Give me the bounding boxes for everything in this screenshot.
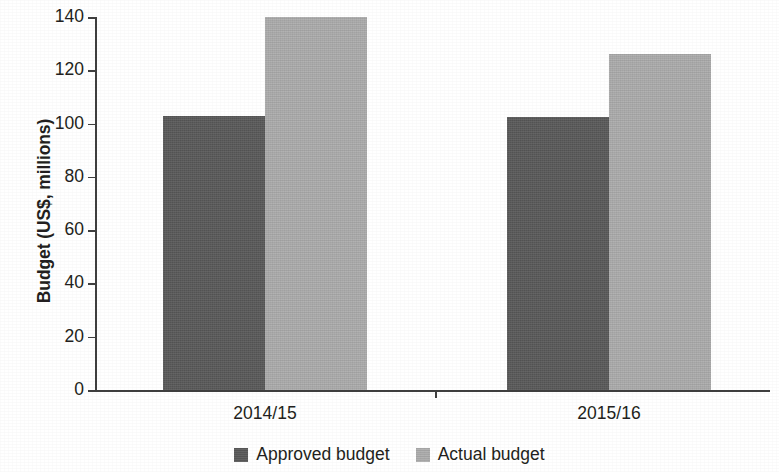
y-axis-tick-label: 60	[65, 221, 84, 239]
bar	[507, 117, 609, 390]
legend-label: Actual budget	[438, 446, 545, 464]
legend-entry: Actual budget	[416, 446, 545, 464]
y-axis-tick-mark	[88, 70, 95, 72]
y-axis-tick-label: 80	[65, 168, 84, 186]
bar	[609, 54, 711, 390]
chart-legend: Approved budgetActual budget	[0, 446, 779, 464]
bar	[163, 116, 265, 390]
x-axis-category-label: 2015/16	[577, 403, 640, 424]
y-axis-tick-mark	[88, 17, 95, 19]
y-axis-line	[95, 17, 97, 391]
y-axis-tick-label: 0	[74, 381, 84, 399]
y-axis-tick-mark	[88, 390, 95, 392]
y-axis-tick-mark	[88, 283, 95, 285]
y-axis-tick-mark	[88, 177, 95, 179]
plot-area: 020406080100120140 2014/152015/16	[95, 17, 770, 390]
bar-chart-figure: Budget (US$, millions) 02040608010012014…	[0, 0, 779, 472]
y-axis-tick-mark	[88, 337, 95, 339]
legend-swatch-approved-budget	[234, 448, 248, 462]
y-axis-tick-label: 120	[55, 62, 84, 80]
y-axis-tick-label: 40	[65, 275, 84, 293]
x-axis-line	[95, 390, 770, 392]
legend-entry: Approved budget	[234, 446, 389, 464]
bar	[265, 17, 367, 390]
y-axis-tick-label: 20	[65, 328, 84, 346]
x-axis-category-label: 2014/15	[233, 403, 296, 424]
y-axis-tick-label: 100	[55, 115, 84, 133]
legend-swatch-actual-budget	[416, 448, 430, 462]
y-axis-tick-label: 140	[55, 8, 84, 26]
x-axis-separator-tick	[435, 390, 437, 398]
legend-label: Approved budget	[256, 446, 389, 464]
y-axis-tick-mark	[88, 230, 95, 232]
y-axis-tick-mark	[88, 124, 95, 126]
